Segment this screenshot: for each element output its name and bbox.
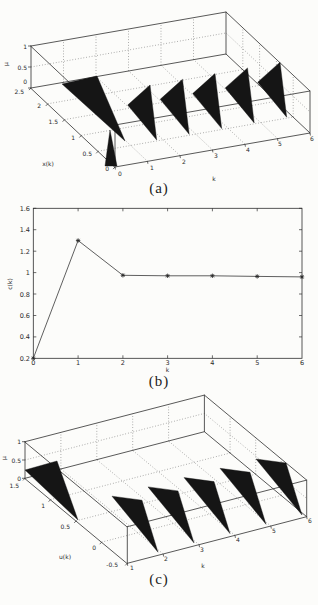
scanned-figure-page: 1 0.5 0 μ 2.5 2 1.5 1 0.5 0 x(k) 0 1 2 3… <box>0 0 318 605</box>
b-x-tick: 0 <box>31 359 35 367</box>
c-z-axis-label: μ <box>0 456 8 460</box>
c-y-tick: 0 <box>92 544 96 551</box>
a-y-tick: 2 <box>37 102 41 109</box>
b-y-tick: 1.4 <box>20 226 30 234</box>
b-y-tick: 0.6 <box>20 312 30 320</box>
c-y-axis-label: u(k) <box>59 553 71 560</box>
b-x-tick: 6 <box>300 359 304 367</box>
a-y-tick: 1.5 <box>48 118 58 125</box>
c-z-tick: 0 <box>17 475 21 482</box>
figure-a-caption: (a) <box>0 180 318 197</box>
a-y-axis-label: x(k) <box>42 160 54 167</box>
c-x-tick: 6 <box>308 517 312 524</box>
figure-b-line-plot: 1.6 1.4 1.2 1 0.8 0.6 0.4 0.2 c(k) 0 1 2… <box>0 198 318 393</box>
a-x-tick: 5 <box>278 140 282 147</box>
b-y-tick: 1.6 <box>20 205 30 213</box>
figure-b-tick-marks <box>33 208 302 358</box>
a-y-tick: 2.5 <box>14 88 24 95</box>
a-y-tick: 1 <box>71 134 75 141</box>
b-x-axis-label: k <box>166 366 170 373</box>
a-x-tick: 4 <box>246 146 250 153</box>
figure-a-membership-triangles <box>62 62 287 166</box>
figure-b-axes-box <box>33 208 302 358</box>
c-y-tick: 1 <box>41 502 45 509</box>
c-z-tick: 0.5 <box>11 457 21 464</box>
c-x-tick: 1 <box>130 564 134 571</box>
b-x-tick: 2 <box>121 359 125 367</box>
figure-c-caption: (c) <box>0 571 318 588</box>
c-y-tick: 1.5 <box>9 482 19 489</box>
figure-a-3d-plot: 1 0.5 0 μ 2.5 2 1.5 1 0.5 0 x(k) 0 1 2 3… <box>0 0 318 196</box>
b-y-tick: 1 <box>26 269 30 277</box>
c-x-tick: 3 <box>200 546 204 553</box>
figure-c-grid <box>25 405 307 555</box>
a-x-tick: 3 <box>214 152 218 159</box>
b-x-tick: 4 <box>210 359 214 367</box>
b-y-tick: 0.2 <box>20 355 30 363</box>
c-x-axis-label: k <box>201 562 205 569</box>
a-x-tick: 1 <box>150 164 154 171</box>
a-x-tick: 6 <box>310 135 314 142</box>
c-x-tick: 5 <box>272 527 276 534</box>
a-z-tick: 0.5 <box>17 64 27 71</box>
b-y-tick: 0.4 <box>20 333 30 341</box>
figure-c-membership-triangles <box>25 459 302 552</box>
c-z-tick: 1 <box>17 438 21 445</box>
figure-b-caption: (b) <box>0 373 318 390</box>
a-z-axis-label: μ <box>2 62 10 66</box>
c-y-tick: 0.5 <box>60 523 70 530</box>
a-x-tick: 2 <box>182 158 186 165</box>
a-x-tick: 0 <box>118 170 122 177</box>
b-x-tick: 5 <box>255 359 259 367</box>
figure-c-3d-plot: 1 0.5 0 μ 1.5 1 0.5 0 -0.5 u(k) 1 2 3 4 … <box>0 392 318 582</box>
figure-c-axes-box <box>25 395 307 563</box>
b-y-tick: 1.2 <box>20 248 30 256</box>
figure-b-data-line <box>33 241 302 359</box>
c-y-tick: -0.5 <box>106 561 118 568</box>
c-x-tick: 4 <box>236 536 240 543</box>
b-y-tick: 0.8 <box>20 291 30 299</box>
b-y-axis-label: c(k) <box>6 278 13 289</box>
b-x-tick: 1 <box>76 359 80 367</box>
a-y-tick: 0.5 <box>82 150 92 157</box>
c-x-tick: 2 <box>164 555 168 562</box>
a-z-tick: 1 <box>23 43 27 50</box>
a-z-tick: 0 <box>23 78 27 85</box>
a-y-tick: 0 <box>105 165 109 172</box>
